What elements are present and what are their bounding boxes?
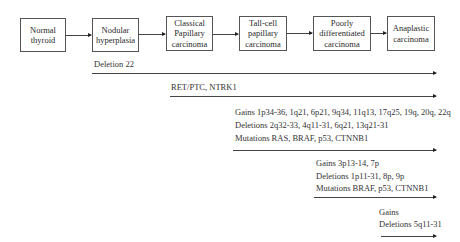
- progression-arrow: [66, 35, 91, 36]
- alteration-deletions: Deletions 5q11-31: [379, 219, 442, 229]
- timeline-arrow: [92, 73, 436, 74]
- alteration-deletions: Deletions 1p11-31, 8p, 9p: [316, 171, 404, 181]
- timeline-arrow: [233, 150, 436, 151]
- stage-classical-papillary-carcinoma: Classical Papillary carcinoma: [166, 16, 213, 51]
- alteration-gains: Gains: [379, 207, 399, 217]
- progression-arrow: [139, 34, 165, 35]
- stage-nodular-hyperplasia: Nodular hyperplasia: [92, 18, 139, 52]
- alteration-gains: Gains 1p34-36, 1q21, 6p21, 9q34, 11q13, …: [235, 107, 451, 117]
- alteration-label: Deletion 22: [94, 59, 134, 69]
- timeline-arrow: [381, 236, 436, 237]
- timeline-arrow: [314, 197, 436, 198]
- progression-arrow: [287, 33, 312, 34]
- progression-arrow: [371, 33, 386, 34]
- progression-arrow: [213, 34, 238, 35]
- timeline-arrow: [170, 96, 436, 97]
- alteration-mutations: Mutations RAS, BRAF, p53, CTNNB1: [235, 133, 368, 143]
- alteration-deletions: Deletions 2q32-33, 4q11-31, 6q21, 13q21-…: [235, 120, 388, 130]
- stage-normal-thyroid: Normal thyroid: [20, 18, 66, 52]
- stage-anaplastic-carcinoma: Anaplastic carcinoma: [387, 16, 435, 51]
- alteration-gains: Gains 3p13-14, 7p: [316, 158, 379, 168]
- alteration-label: RET/PTC, NTRK1: [171, 82, 237, 92]
- stage-poorly-differentiated-carcinoma: Poorly differentiated carcinoma: [313, 16, 371, 51]
- alteration-mutations: Mutations BRAF, p53, CTNNB1: [316, 183, 428, 193]
- stage-tall-cell-papillary-carcinoma: Tall-cell papillary carcinoma: [239, 16, 287, 51]
